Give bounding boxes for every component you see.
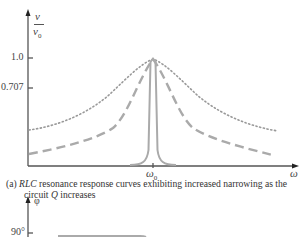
y-axis-label-numerator: v (35, 10, 40, 22)
caption-prefix: (a) (6, 178, 19, 189)
figure-caption: (a) RLC resonance response curves exhibi… (6, 178, 300, 200)
caption-line-2: circuit Q increases (6, 189, 300, 200)
denominator-sub: 0 (38, 32, 42, 40)
tick-label-1-0: 1.0 (11, 51, 24, 62)
y-axis-label-denominator: v0 (33, 25, 41, 40)
curve-low-q (29, 59, 278, 131)
y-axis-arrow-icon (26, 9, 31, 16)
caption-increases: increases (58, 189, 96, 200)
tick-label-90: 90° (11, 226, 25, 237)
phi-axis-label: φ (34, 195, 40, 206)
caption-rlc: RLC (19, 178, 37, 189)
curve-phase (58, 236, 146, 237)
panel-b-axes (28, 200, 33, 237)
resonance-chart (0, 0, 302, 237)
tick-label-0-707: 0.707 (1, 81, 24, 92)
curve-high-q (130, 60, 176, 166)
caption-text: resonance response curves exhibiting inc… (37, 178, 287, 189)
panel-a-axes (28, 14, 294, 168)
caption-q: Q (51, 189, 58, 200)
